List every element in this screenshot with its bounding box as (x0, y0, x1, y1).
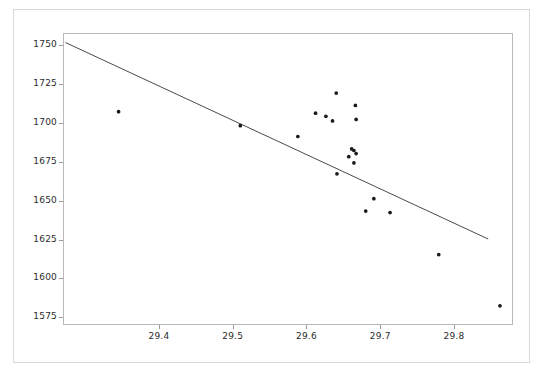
chart-figure: 15751600162516501675170017251750 29.429.… (0, 0, 544, 374)
data-point (352, 149, 356, 153)
data-point (498, 304, 502, 308)
x-axis-tick-label: 29.5 (211, 331, 255, 341)
data-point (238, 124, 242, 128)
y-axis-tick-mark (59, 278, 63, 279)
y-axis-tick-label: 1575 (15, 311, 57, 321)
data-point (354, 118, 358, 122)
data-point (331, 119, 335, 123)
data-point (354, 152, 358, 156)
data-point (364, 209, 368, 213)
y-axis-tick-label: 1725 (15, 78, 57, 88)
x-axis-tick-mark (454, 325, 455, 329)
y-axis-tick-mark (59, 317, 63, 318)
x-axis-tick-mark (380, 325, 381, 329)
y-axis-tick-mark (59, 84, 63, 85)
y-axis-tick-label: 1700 (15, 117, 57, 127)
trendline-group (65, 43, 488, 239)
data-point (388, 211, 392, 215)
data-point (334, 91, 338, 95)
regression-line (65, 43, 488, 239)
data-point (335, 172, 339, 176)
data-point (296, 135, 300, 139)
data-point (354, 104, 358, 108)
data-point (352, 161, 356, 165)
scatter-plot-canvas (64, 34, 514, 326)
y-axis-tick-label: 1675 (15, 156, 57, 166)
data-point (324, 114, 328, 118)
x-axis-tick-mark (306, 325, 307, 329)
x-axis-tick-mark (159, 325, 160, 329)
x-axis-tick-label: 29.7 (358, 331, 402, 341)
y-axis-tick-label: 1750 (15, 39, 57, 49)
y-axis-tick-mark (59, 162, 63, 163)
y-axis-tick-label: 1650 (15, 195, 57, 205)
data-point (117, 110, 121, 114)
data-point (437, 253, 441, 257)
data-point (347, 155, 351, 159)
x-axis-tick-mark (233, 325, 234, 329)
y-axis-tick-mark (59, 45, 63, 46)
x-axis-tick-label: 29.6 (284, 331, 328, 341)
x-axis-tick-label: 29.4 (137, 331, 181, 341)
y-axis-tick-label: 1600 (15, 272, 57, 282)
x-axis-tick-label: 29.8 (432, 331, 476, 341)
y-axis-tick-mark (59, 240, 63, 241)
data-point (372, 197, 376, 201)
y-axis-tick-mark (59, 123, 63, 124)
plot-area (63, 33, 513, 325)
data-point (314, 111, 318, 115)
data-points-group (117, 91, 502, 308)
y-axis-tick-label: 1625 (15, 234, 57, 244)
y-axis-tick-mark (59, 201, 63, 202)
